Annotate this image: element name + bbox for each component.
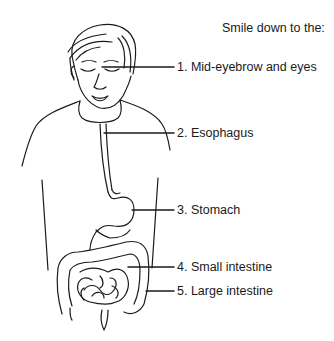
label-esophagus: 2. Esophagus	[177, 126, 253, 140]
small-intestine-drawing	[78, 268, 129, 304]
instruction-title: Smile down to the:	[222, 21, 325, 35]
stomach-drawing	[90, 190, 134, 250]
torso-outline	[22, 100, 170, 270]
anatomy-illustration	[0, 0, 334, 341]
esophagus-drawing	[100, 124, 112, 192]
label-stomach: 3. Stomach	[177, 203, 240, 217]
leader-lines	[102, 67, 174, 291]
label-small-intestine: 4. Small intestine	[177, 260, 272, 274]
label-mid-eyebrow-and-eyes: 1. Mid-eyebrow and eyes	[177, 60, 317, 74]
label-large-intestine: 5. Large intestine	[177, 284, 273, 298]
